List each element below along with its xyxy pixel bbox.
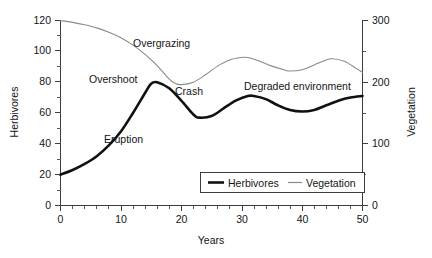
right-tick-label-100: 100 bbox=[372, 137, 390, 149]
chart-annotations: Overgrazing Overshoot Crash Eruption Deg… bbox=[89, 37, 351, 145]
left-tick-label-80: 80 bbox=[39, 75, 51, 87]
series-line-herbivores bbox=[61, 82, 363, 175]
right-tick-label-300: 300 bbox=[372, 14, 390, 26]
chart-canvas: 0 20 40 60 80 100 120 Herbivores 0 100 2… bbox=[0, 0, 432, 258]
left-tick-label-40: 40 bbox=[39, 137, 51, 149]
left-tick-label-100: 100 bbox=[33, 44, 51, 56]
legend-label-herbivores: Herbivores bbox=[228, 177, 279, 189]
x-tick-label-20: 20 bbox=[176, 213, 188, 225]
legend-label-vegetation: Vegetation bbox=[306, 177, 356, 189]
annotation-overshoot: Overshoot bbox=[89, 73, 138, 85]
x-axis: 0 10 20 30 40 50 Years bbox=[58, 206, 369, 247]
annotation-overgrazing: Overgrazing bbox=[133, 37, 190, 49]
chart-legend[interactable]: Herbivores Vegetation bbox=[201, 173, 365, 193]
annotation-degraded-environment: Degraded environment bbox=[244, 80, 351, 92]
x-tick-label-50: 50 bbox=[357, 213, 369, 225]
annotation-eruption: Eruption bbox=[104, 133, 143, 145]
right-axis: 0 100 200 300 Vegetation bbox=[363, 14, 418, 211]
right-axis-title: Vegetation bbox=[405, 87, 417, 137]
x-tick-label-0: 0 bbox=[58, 213, 64, 225]
x-tick-label-40: 40 bbox=[297, 213, 309, 225]
left-axis: 0 20 40 60 80 100 120 Herbivores bbox=[8, 14, 61, 211]
left-tick-label-20: 20 bbox=[39, 168, 51, 180]
annotation-crash: Crash bbox=[175, 85, 203, 97]
left-tick-label-120: 120 bbox=[33, 14, 51, 26]
x-tick-label-30: 30 bbox=[236, 213, 248, 225]
right-tick-label-0: 0 bbox=[372, 199, 378, 211]
x-tick-label-10: 10 bbox=[115, 213, 127, 225]
left-tick-label-0: 0 bbox=[45, 199, 51, 211]
x-axis-title: Years bbox=[198, 234, 224, 246]
chart-figure: 0 20 40 60 80 100 120 Herbivores 0 100 2… bbox=[0, 0, 432, 258]
right-tick-label-200: 200 bbox=[372, 76, 390, 88]
left-tick-label-60: 60 bbox=[39, 106, 51, 118]
left-axis-title: Herbivores bbox=[8, 87, 20, 138]
